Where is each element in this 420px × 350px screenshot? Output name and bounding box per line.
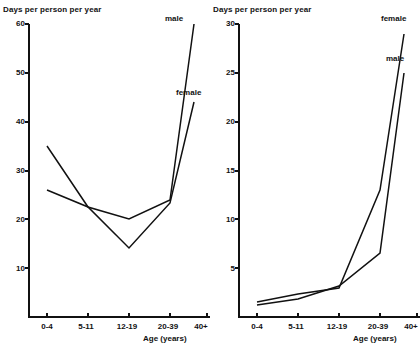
left-series-male-line [47,24,194,219]
left-series-female-line [47,102,194,248]
right-series-female-line [257,34,404,302]
left-plot-area [0,0,210,350]
chart-panel-left: Days per person per year 60 50 40 30 20 … [0,0,210,350]
right-series-male-line [257,73,404,305]
left-axis-lines [29,24,210,317]
right-plot-area [210,0,420,350]
right-axis-lines [239,24,420,317]
chart-panel-right: Days per person per year 30 25 20 15 10 … [210,0,420,350]
charts-container: Days per person per year 60 50 40 30 20 … [0,0,420,350]
